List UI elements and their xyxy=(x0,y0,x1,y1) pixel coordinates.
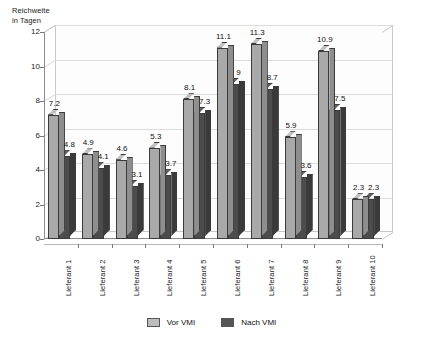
x-tick-mark xyxy=(78,244,79,248)
x-axis-label-4: Lieferant 4 xyxy=(165,259,174,296)
legend-label: Nach VMI xyxy=(241,318,276,327)
x-tick-mark xyxy=(314,244,315,248)
x-axis-label-8: Lieferant 8 xyxy=(301,259,310,296)
chart-3d-bar-reichweite: Reichweite in Tagen 024681012 7.24.84.94… xyxy=(0,0,423,348)
x-tick-mark xyxy=(348,244,349,248)
x-tick-mark xyxy=(112,244,113,248)
x-axis-label-5: Lieferant 5 xyxy=(199,259,208,296)
x-axis-label-9: Lieferant 9 xyxy=(334,259,343,296)
legend-swatch xyxy=(221,318,234,327)
x-tick-mark xyxy=(145,244,146,248)
x-tick-mark xyxy=(382,244,383,248)
x-tick-mark xyxy=(281,244,282,248)
chart-legend: Vor VMINach VMI xyxy=(0,318,423,327)
x-axis-category-labels: Lieferant 1Lieferant 2Lieferant 3Liefera… xyxy=(0,0,423,348)
x-axis-label-10: Lieferant 10 xyxy=(368,255,377,296)
legend-item-vor-vmi: Vor VMI xyxy=(147,318,195,327)
legend-label: Vor VMI xyxy=(167,318,195,327)
x-tick-mark xyxy=(247,244,248,248)
x-tick-mark xyxy=(213,244,214,248)
x-tick-mark xyxy=(179,244,180,248)
x-axis-label-7: Lieferant 7 xyxy=(267,259,276,296)
x-axis-label-2: Lieferant 2 xyxy=(98,259,107,296)
x-axis-label-1: Lieferant 1 xyxy=(64,259,73,296)
legend-item-nach-vmi: Nach VMI xyxy=(221,318,276,327)
x-axis-label-3: Lieferant 3 xyxy=(132,259,141,296)
legend-swatch xyxy=(147,318,160,327)
x-axis-label-6: Lieferant 6 xyxy=(233,259,242,296)
